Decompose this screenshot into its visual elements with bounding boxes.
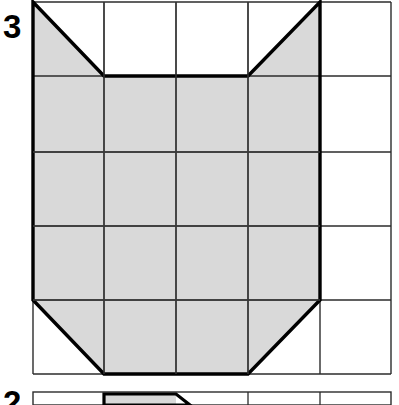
figure-3-grid [0,0,399,380]
shaded-shape-partial-fill [104,394,176,405]
figure-2-grid-partial [0,388,399,405]
worksheet-page: 3 [0,0,399,405]
grid-outer-border-partial [33,392,391,405]
